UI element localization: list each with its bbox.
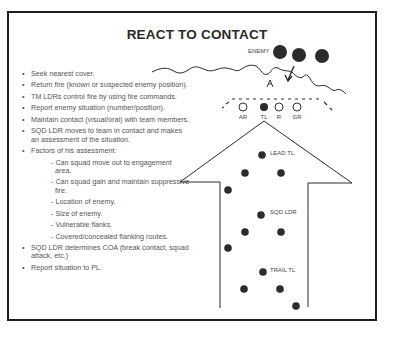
squad-formation-diagram: ENEMY AR TL R GR LEAD TL SQD LDR TRAIL T… [0, 0, 394, 355]
trail-tl-dot [259, 268, 267, 276]
r-label: R [277, 114, 282, 120]
enemy-dot [273, 45, 287, 59]
gr-position [293, 103, 301, 111]
soldier-dot [277, 169, 285, 177]
fire-arrow-icon [285, 66, 294, 81]
enemy-dot [292, 48, 306, 62]
soldier-dot [277, 228, 285, 236]
tl-label: TL [260, 114, 268, 120]
soldier-dot [224, 244, 232, 252]
soldier-dot [224, 186, 232, 194]
enemy-label: ENEMY [248, 48, 269, 54]
sqd-ldr-label: SQD LDR [270, 209, 297, 215]
soldier-dot [241, 228, 249, 236]
terrain-line [152, 65, 346, 94]
ar-position [239, 103, 247, 111]
r-position [275, 103, 283, 111]
trail-tl-label: TRAIL TL [270, 267, 296, 273]
soldier-dot [241, 169, 249, 177]
lead-tl-label: LEAD TL [270, 150, 295, 156]
soldier-dot [240, 285, 248, 293]
tl-position [260, 103, 268, 111]
soldier-dot [292, 302, 300, 310]
direction-caret-icon [267, 80, 273, 87]
gr-label: GR [293, 114, 303, 120]
enemy-dot [315, 49, 329, 63]
sqd-ldr-dot [257, 211, 265, 219]
soldier-dot [276, 285, 284, 293]
movement-arrow [180, 121, 352, 308]
ar-label: AR [239, 114, 248, 120]
lead-tl-dot [258, 151, 266, 159]
